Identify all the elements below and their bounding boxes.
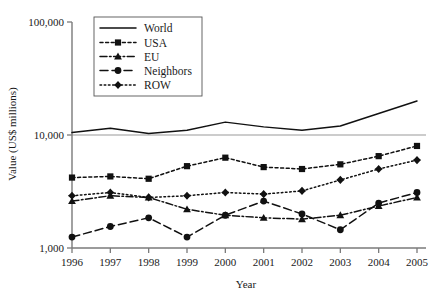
data-point-diamond	[260, 190, 268, 198]
data-point-square	[337, 161, 343, 167]
data-point-diamond	[413, 156, 421, 164]
data-point-square	[376, 153, 382, 159]
data-point-diamond	[375, 165, 383, 173]
x-tick-label: 2005	[406, 256, 429, 268]
data-point-circle	[69, 234, 76, 241]
data-point-circle	[375, 200, 382, 207]
series-line	[72, 160, 417, 197]
x-axis-title: Year	[236, 278, 257, 290]
data-point-diamond	[68, 192, 76, 200]
legend-label: Neighbors	[144, 65, 192, 78]
data-point-diamond	[298, 187, 306, 195]
y-tick-label: 100,000	[28, 16, 64, 28]
data-point-diamond	[183, 192, 191, 200]
chart-legend: WorldUSAEUNeighborsROW	[94, 17, 202, 96]
data-point-circle	[414, 189, 421, 196]
x-tick-label: 1997	[99, 256, 122, 268]
x-tick-label: 1998	[138, 256, 161, 268]
data-point-circle	[184, 234, 191, 241]
x-tick-label: 1999	[176, 256, 199, 268]
x-tick-label: 2000	[214, 256, 237, 268]
data-point-square	[222, 155, 228, 161]
data-point-circle	[115, 67, 122, 74]
data-point-diamond	[336, 176, 344, 184]
y-tick-label: 10,000	[34, 129, 65, 141]
y-tick-label: 1,000	[39, 242, 64, 254]
data-point-diamond	[221, 188, 229, 196]
data-point-circle	[337, 226, 344, 233]
legend-label: USA	[144, 37, 168, 49]
data-point-square	[115, 39, 121, 45]
x-tick-label: 2003	[329, 256, 352, 268]
series-line	[72, 192, 417, 237]
data-point-square	[146, 176, 152, 182]
series-line	[72, 146, 417, 179]
y-axis-tick-labels: 100,00010,0001,000	[28, 16, 64, 254]
legend-label: EU	[144, 51, 160, 63]
series-layer	[68, 101, 421, 240]
data-point-square	[414, 143, 420, 149]
data-point-circle	[260, 198, 267, 205]
data-point-circle	[145, 214, 152, 221]
data-point-circle	[222, 212, 229, 219]
x-tick-label: 2002	[291, 256, 313, 268]
chart-container: 100,00010,0001,000 199619971998199920002…	[0, 0, 443, 299]
y-axis-title: Value (US$ millions)	[6, 87, 19, 181]
line-chart: 100,00010,0001,000 199619971998199920002…	[0, 0, 443, 299]
data-point-square	[261, 164, 267, 170]
series-line	[72, 101, 417, 134]
series-eu	[68, 192, 421, 222]
y-axis-ticks	[67, 22, 72, 248]
data-point-square	[299, 166, 305, 172]
data-point-square	[184, 163, 190, 169]
x-tick-label: 2001	[253, 256, 275, 268]
series-world	[72, 101, 417, 134]
x-tick-label: 1996	[61, 256, 84, 268]
x-tick-label: 2004	[368, 256, 391, 268]
legend-label: World	[144, 22, 173, 34]
data-point-circle	[107, 223, 114, 230]
legend-label: ROW	[144, 79, 171, 91]
data-point-circle	[299, 211, 306, 218]
x-axis-ticks	[72, 248, 417, 253]
data-point-square	[107, 173, 113, 179]
series-usa	[69, 143, 420, 182]
x-axis-tick-labels: 1996199719981999200020012002200320042005	[61, 256, 429, 268]
data-point-square	[69, 174, 75, 180]
